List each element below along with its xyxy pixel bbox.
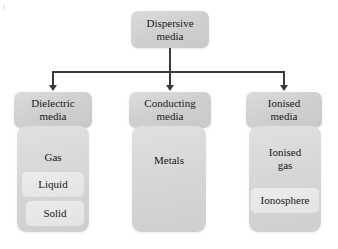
node-dispersive-media: Dispersive media [131,11,209,48]
item-ionised-gas-line1: Ionised [269,146,301,159]
arrowhead-ionised [280,85,288,91]
node-dispersive-media-line2: media [146,30,193,43]
node-dielectric-media-line1: Dielectric [31,97,74,110]
item-solid-label: Solid [43,207,66,220]
node-conducting-media-line2: media [144,110,195,123]
item-gas: Gas [17,145,89,169]
connector-drop-dielectric [52,71,54,86]
panel-conducting-media: Metals [132,126,206,232]
arrowhead-conducting [166,85,174,91]
connector-drop-conducting [169,71,171,86]
panel-dielectric-media: Gas Liquid Solid [17,126,89,232]
arrowhead-dielectric [49,85,57,91]
node-conducting-media-line1: Conducting [144,97,195,110]
connector-root-stem [169,48,171,72]
item-metals: Metals [132,148,206,172]
node-conducting-media: Conducting media [129,92,211,128]
node-dielectric-media-line2: media [31,110,74,123]
item-liquid: Liquid [22,172,84,197]
dispersive-media-diagram: l Dispersive media Dielectric media Gas … [0,0,338,249]
scan-artifact: l [3,2,9,12]
item-ionosphere-label: Ionosphere [261,194,310,207]
node-dielectric-media: Dielectric media [14,92,92,128]
item-gas-label: Gas [44,151,61,164]
item-ionised-gas: Ionised gas [249,142,321,176]
connector-drop-ionised [283,71,285,86]
item-solid: Solid [26,201,84,226]
panel-ionised-media: Ionised gas Ionosphere [249,126,321,232]
item-metals-label: Metals [154,154,184,167]
item-liquid-label: Liquid [38,178,67,191]
item-ionosphere: Ionosphere [251,188,319,213]
node-ionised-media-line2: media [268,110,300,123]
node-ionised-media-line1: Ionised [268,97,300,110]
node-ionised-media: Ionised media [246,92,322,128]
node-dispersive-media-line1: Dispersive [146,17,193,30]
item-ionised-gas-line2: gas [278,159,293,172]
